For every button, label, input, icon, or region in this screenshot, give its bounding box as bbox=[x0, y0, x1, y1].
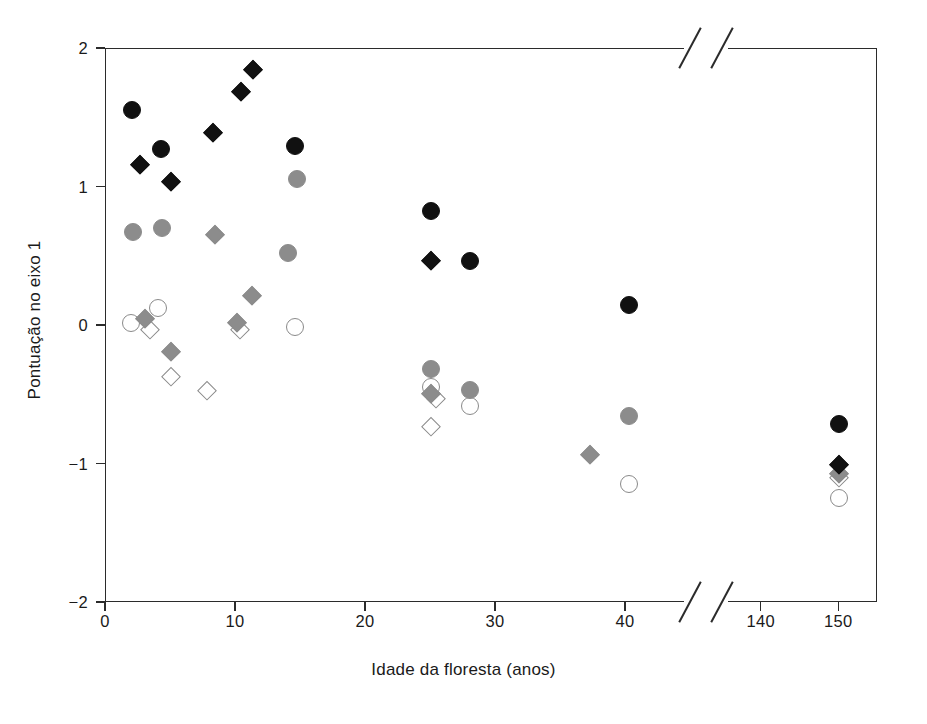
x-axis-tick-label: 30 bbox=[486, 612, 505, 631]
data-point-gray-diamond bbox=[579, 445, 599, 465]
data-point-black-diamond bbox=[161, 172, 181, 192]
y-axis-title: Pontuação no eixo 1 bbox=[25, 80, 45, 560]
data-point-black-diamond bbox=[421, 251, 441, 271]
x-axis-title: Idade da floresta (anos) bbox=[0, 660, 927, 680]
data-point-gray-circle bbox=[288, 170, 306, 188]
data-point-black-circle bbox=[422, 202, 440, 220]
data-point-gray-diamond bbox=[161, 342, 181, 362]
y-axis-tick-label: −1 bbox=[69, 454, 88, 473]
data-point-open-diamond bbox=[197, 381, 217, 401]
x-axis-tick bbox=[624, 602, 625, 611]
data-point-open-diamond bbox=[421, 417, 441, 437]
data-point-open-diamond bbox=[161, 367, 181, 387]
data-point-black-circle bbox=[152, 140, 170, 158]
y-axis-tick bbox=[96, 186, 105, 187]
data-point-open-circle bbox=[461, 397, 479, 415]
x-axis-tick-label: 140 bbox=[747, 612, 775, 631]
data-point-black-diamond bbox=[243, 60, 263, 80]
data-point-open-circle bbox=[830, 489, 848, 507]
x-axis-tick bbox=[494, 602, 495, 611]
data-point-open-circle bbox=[149, 299, 167, 317]
y-axis-tick bbox=[96, 324, 105, 325]
data-point-gray-diamond bbox=[205, 224, 225, 244]
x-axis-tick bbox=[364, 602, 365, 611]
x-axis-tick-label: 40 bbox=[616, 612, 635, 631]
data-point-gray-circle bbox=[279, 244, 297, 262]
data-point-open-circle bbox=[286, 318, 304, 336]
y-axis-tick bbox=[96, 601, 105, 602]
data-point-gray-circle bbox=[461, 381, 479, 399]
x-axis-tick bbox=[104, 602, 105, 611]
x-axis-tick bbox=[234, 602, 235, 611]
scatter-plot-figure: −2−1012 Pontuação no eixo 1 010203040140… bbox=[0, 0, 927, 724]
data-point-gray-diamond bbox=[241, 285, 261, 305]
y-axis-tick-label: 0 bbox=[79, 316, 88, 335]
data-point-black-diamond bbox=[231, 82, 251, 102]
data-point-gray-circle bbox=[124, 223, 142, 241]
data-point-black-circle bbox=[286, 137, 304, 155]
x-axis-tick-label: 10 bbox=[226, 612, 245, 631]
y-axis-tick-label: −2 bbox=[69, 593, 88, 612]
data-point-black-diamond bbox=[130, 155, 150, 175]
y-axis-tick-label: 1 bbox=[79, 177, 88, 196]
data-point-gray-circle bbox=[422, 360, 440, 378]
data-point-gray-circle bbox=[153, 219, 171, 237]
data-point-gray-circle bbox=[620, 407, 638, 425]
y-axis-tick-label: 2 bbox=[79, 39, 88, 58]
data-point-black-circle bbox=[830, 415, 848, 433]
x-axis-tick bbox=[838, 602, 839, 611]
data-point-black-circle bbox=[123, 101, 141, 119]
x-axis-tick-label: 0 bbox=[100, 612, 109, 631]
data-point-black-circle bbox=[461, 252, 479, 270]
y-axis-tick bbox=[96, 463, 105, 464]
x-axis-tick-label: 150 bbox=[824, 612, 852, 631]
plot-area bbox=[105, 48, 877, 602]
data-point-open-circle bbox=[620, 475, 638, 493]
data-point-black-diamond bbox=[202, 123, 222, 143]
x-axis-tick-label: 20 bbox=[356, 612, 375, 631]
data-point-black-circle bbox=[620, 296, 638, 314]
y-axis-tick bbox=[96, 47, 105, 48]
x-axis-tick bbox=[760, 602, 761, 611]
